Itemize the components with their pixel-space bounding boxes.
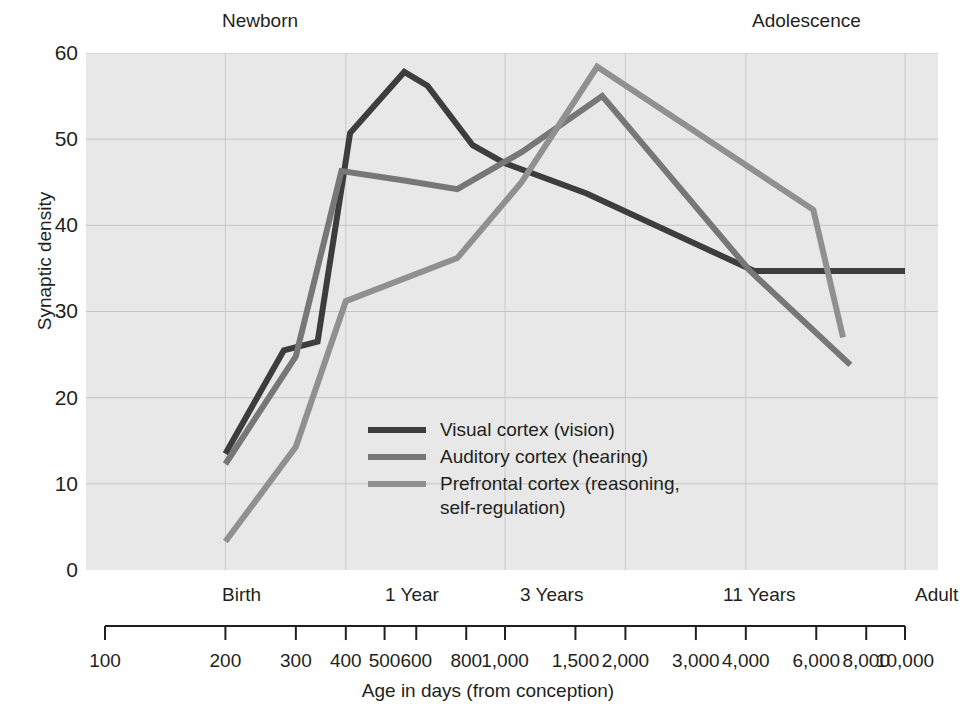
x-tick-label-300: 300 [280,650,312,672]
x-tick-label-400: 400 [330,650,362,672]
x-tick-label-200: 200 [210,650,242,672]
x-tick-label-800: 800 [450,650,482,672]
y-tick-50: 50 [18,128,78,149]
x-tick-label-10000: 10,000 [876,650,934,672]
x-tick-label-1000: 1,000 [481,650,529,672]
y-tick-10: 10 [18,473,78,494]
stage-label-3-years: 3 Years [520,584,583,606]
x-tick-label-4000: 4,000 [722,650,770,672]
legend-label-visual-cortex: Visual cortex (vision) [440,418,615,442]
x-tick-label-100: 100 [89,650,121,672]
legend-label-auditory-cortex: Auditory cortex (hearing) [440,445,648,469]
y-tick-0: 0 [18,559,78,580]
legend-item-visual-cortex[interactable]: Visual cortex (vision) [368,418,680,442]
synaptic-density-chart: Newborn Adolescence Synaptic density 60 … [0,0,976,708]
series-line-auditory-cortex-hearing [225,96,850,464]
stage-label-birth: Birth [222,584,261,606]
x-axis-ruler [0,622,976,652]
y-tick-30: 30 [18,300,78,321]
x-tick-label-1500: 1,500 [552,650,600,672]
legend-label-prefrontal-line2: self-regulation) [440,497,566,518]
chart-legend: Visual cortex (vision) Auditory cortex (… [368,418,680,523]
legend-label-prefrontal-cortex: Prefrontal cortex (reasoning, self-regul… [440,472,680,520]
y-axis-ticks: 60 50 40 30 20 10 0 [10,0,78,708]
x-tick-label-2000: 2,000 [602,650,650,672]
legend-swatch-visual-cortex [368,427,426,433]
x-axis-title: Age in days (from conception) [0,680,976,702]
legend-item-prefrontal-cortex[interactable]: Prefrontal cortex (reasoning, self-regul… [368,472,680,520]
y-tick-40: 40 [18,214,78,235]
x-tick-label-6000: 6,000 [792,650,840,672]
era-label-adolescence: Adolescence [752,10,861,32]
legend-item-auditory-cortex[interactable]: Auditory cortex (hearing) [368,445,680,469]
legend-swatch-auditory-cortex [368,454,426,460]
era-label-newborn: Newborn [222,10,298,32]
legend-swatch-prefrontal-cortex [368,481,426,487]
stage-label-11-years: 11 Years [723,584,796,606]
legend-label-prefrontal-line1: Prefrontal cortex (reasoning, [440,473,680,494]
x-tick-label-3000: 3,000 [672,650,720,672]
series-line-visual-cortex-vision [225,72,905,454]
y-tick-60: 60 [18,42,78,63]
y-tick-20: 20 [18,387,78,408]
x-tick-label-500: 500 [369,650,401,672]
stage-label-1-year: 1 Year [385,584,439,606]
x-tick-label-600: 600 [400,650,432,672]
stage-label-adult: Adult [915,584,958,606]
